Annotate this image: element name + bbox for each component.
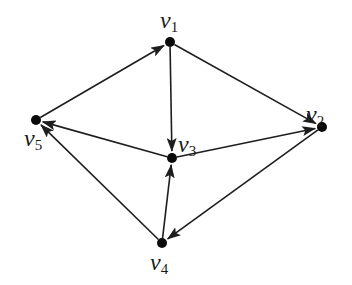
node-label-v4: v4 bbox=[150, 250, 168, 277]
node-label-v2: v2 bbox=[306, 102, 324, 129]
node-label-v5: v5 bbox=[24, 126, 42, 153]
label-base: v bbox=[160, 7, 171, 33]
edge-v1-to-v2 bbox=[174, 44, 316, 123]
label-subscript: 2 bbox=[317, 113, 325, 129]
label-subscript: 4 bbox=[161, 261, 169, 277]
edge-v5-to-v1 bbox=[40, 46, 164, 118]
edge-v4-to-v5 bbox=[41, 125, 158, 240]
label-subscript: 1 bbox=[171, 19, 179, 35]
node-v4 bbox=[157, 238, 167, 248]
edge-v4-to-v3 bbox=[163, 165, 172, 238]
node-label-v3: v3 bbox=[178, 132, 196, 159]
label-base: v bbox=[178, 131, 189, 157]
label-base: v bbox=[24, 125, 35, 151]
edge-v1-to-v3 bbox=[170, 47, 172, 151]
graph-canvas bbox=[0, 0, 352, 285]
node-v3 bbox=[167, 153, 177, 163]
label-base: v bbox=[306, 101, 317, 127]
node-v5 bbox=[31, 115, 41, 125]
directed-graph-diagram: v1v2v3v4v5 bbox=[0, 0, 352, 285]
label-base: v bbox=[150, 249, 161, 275]
label-subscript: 5 bbox=[35, 137, 43, 153]
label-subscript: 3 bbox=[189, 143, 197, 159]
edge-v3-to-v2 bbox=[177, 128, 315, 157]
node-v1 bbox=[165, 37, 175, 47]
edge-v3-to-v5 bbox=[43, 122, 167, 157]
node-label-v1: v1 bbox=[160, 8, 178, 35]
